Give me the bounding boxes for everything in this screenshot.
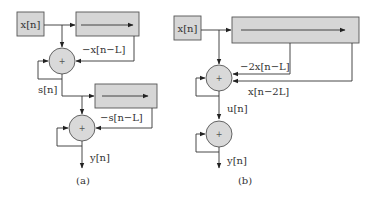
adder-2-a: +	[69, 115, 95, 141]
input-block-b: x[n]	[174, 16, 201, 40]
diagram-a: x[n] + −x[n−L] s[n]	[17, 12, 157, 186]
adder-2-b: +	[206, 121, 232, 147]
adder-1-a: +	[49, 48, 75, 74]
input-block-a: x[n]	[17, 12, 44, 36]
tap2-label-b: x[n−2L]	[248, 86, 289, 97]
caption-b: (b)	[238, 175, 252, 186]
adder-1-b: +	[206, 65, 232, 91]
feedback2-label-a: −s[n−L]	[100, 112, 143, 123]
tap1-label-b: −2x[n−L]	[240, 61, 290, 72]
delay-line-1-a	[76, 12, 139, 36]
feedback1-label-a: −x[n−L]	[82, 44, 125, 55]
plus-icon: +	[79, 124, 86, 133]
plus-icon: +	[216, 74, 223, 83]
output-label-b: y[n]	[226, 155, 247, 166]
input-label-a: x[n]	[21, 19, 41, 30]
intermediate-label-a: s[n]	[38, 84, 57, 95]
delay-line-b	[232, 17, 359, 43]
plus-icon: +	[216, 130, 223, 139]
input-label-b: x[n]	[178, 23, 198, 34]
delay-line-2-a	[95, 84, 157, 108]
intermediate-label-b: u[n]	[227, 103, 248, 114]
block-diagram-canvas: x[n] + −x[n−L] s[n]	[0, 0, 375, 197]
diagram-b: x[n] + −2x[n−L] x[n−2L] u[n] + y[n] (b)	[174, 16, 359, 186]
plus-icon: +	[59, 57, 66, 66]
caption-a: (a)	[76, 175, 90, 186]
output-label-a: y[n]	[89, 152, 110, 163]
